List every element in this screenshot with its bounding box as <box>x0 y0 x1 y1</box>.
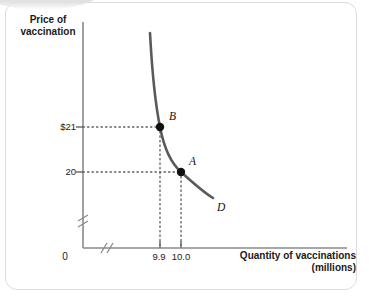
origin-label: 0 <box>58 251 72 262</box>
curve-label-d: D <box>217 201 225 213</box>
y-tick-label-21: $21 <box>26 121 76 132</box>
x-tick-label-10-0: 10.0 <box>163 251 199 262</box>
point-label-a: A <box>189 155 196 167</box>
data-point-b <box>156 123 164 131</box>
data-point-a <box>177 168 185 176</box>
figure-canvas: Price of vaccination Quantity of vaccina… <box>0 0 369 299</box>
x-axis-title: Quantity of vaccinations (millions) <box>208 250 356 274</box>
y-axis-title: Price of vaccination <box>13 14 83 38</box>
y-tick-label-20: 20 <box>26 166 76 177</box>
point-label-b: B <box>169 110 176 122</box>
